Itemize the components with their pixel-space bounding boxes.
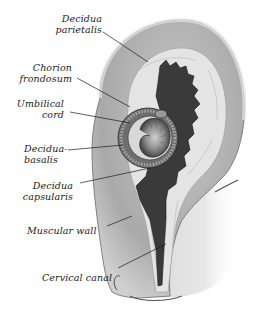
label-decidua-basalis: Decidua- basalis [24,143,67,165]
label-decidua-parietalis: Decidua parietalis [48,13,102,35]
embryo [140,118,170,157]
label-umbilical-cord: Umbilical cord [14,98,64,120]
label-cervical-canal: Cervical canal [42,272,112,283]
uterus-diagram: Decidua parietalis Chorion frondosum Umb… [0,0,259,316]
label-decidua-capsularis: Decidua capsularis [16,180,73,202]
label-chorion-frondosum: Chorion frondosum [16,62,72,84]
yolk-sac [155,110,167,118]
label-muscular-wall: Muscular wall [27,225,97,236]
